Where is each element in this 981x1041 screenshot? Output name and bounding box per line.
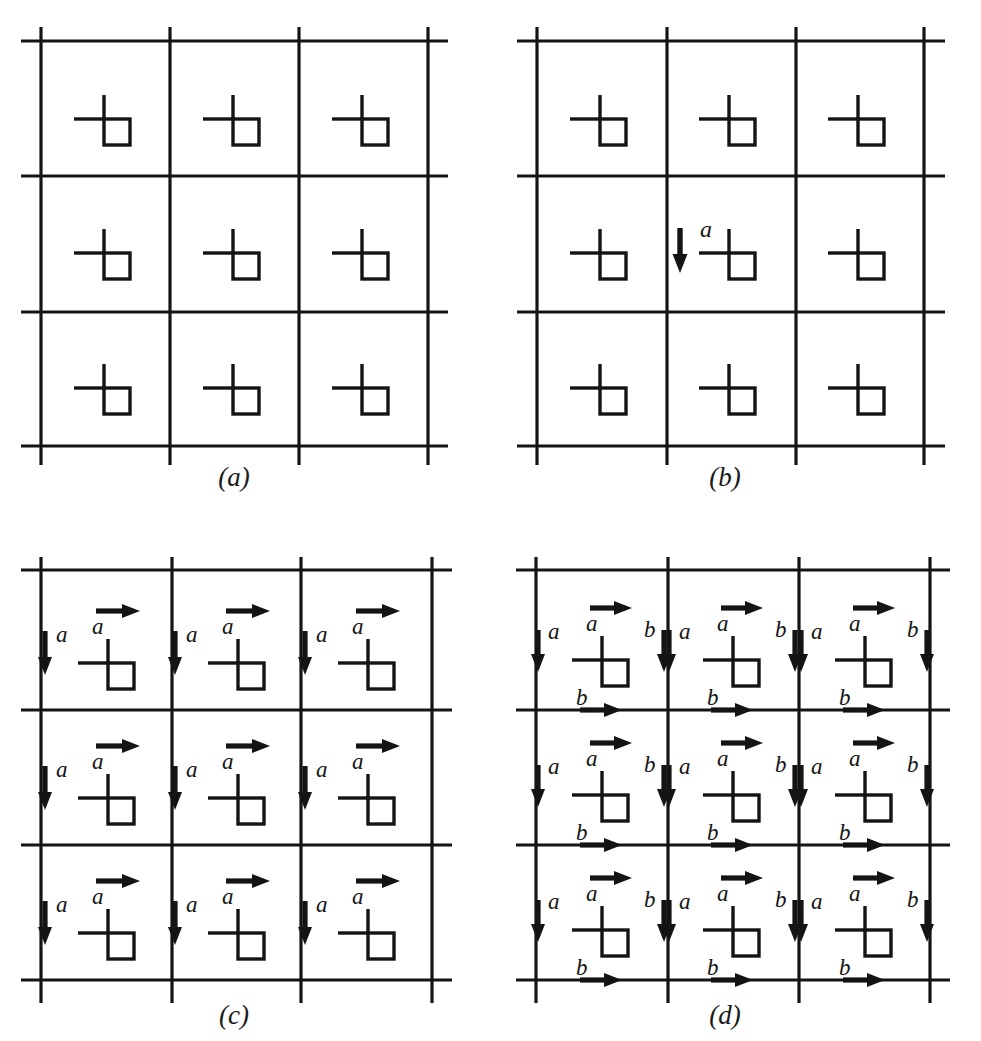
panel-d-label-a-top-1: a [586, 612, 598, 635]
caption-panel-d: (d) [665, 1000, 785, 1031]
caption-panel-c-text: (c) [219, 1000, 249, 1030]
panel-c-label-a-left-7: a [56, 893, 68, 916]
caption-panel-a: (a) [174, 462, 294, 493]
panel-c-label-a-top-9: a [352, 885, 364, 908]
panel-d-label-b-bottom-5: b [707, 821, 719, 844]
panel-d-label-a-left-8: a [679, 890, 691, 913]
panel-d-label-a-left-1: a [548, 620, 560, 643]
panel-c-label-a-left-1: a [56, 623, 68, 646]
panel-a-motifs [74, 95, 388, 414]
panel-d-label-a-top-7: a [586, 882, 598, 905]
panel-c-label-a-left-6: a [316, 758, 328, 781]
caption-panel-c: (c) [174, 1000, 294, 1031]
panel-d-label-a-left-5: a [679, 755, 691, 778]
panel-c-label-a-left-2: a [186, 623, 198, 646]
panel-b [490, 0, 981, 500]
panel-d-label-a-top-3: a [849, 612, 861, 635]
caption-panel-d-text: (d) [709, 1000, 740, 1030]
panel-b-label-a: a [700, 216, 712, 243]
panel-d-label-b-right-7: b [644, 888, 656, 911]
panel-b-motifs [570, 95, 884, 414]
panel-d-label-a-left-3: a [811, 620, 823, 643]
caption-panel-b-text: (b) [709, 462, 740, 492]
panel-d-canvas [490, 545, 981, 1015]
panel-c-label-a-left-4: a [56, 758, 68, 781]
panel-b-vector-a-down [673, 228, 688, 273]
caption-panel-b: (b) [665, 462, 785, 493]
panel-d-label-a-left-7: a [548, 890, 560, 913]
panel-d-label-a-left-6: a [811, 755, 823, 778]
panel-d-label-b-bottom-1: b [576, 686, 588, 709]
panel-d-label-b-bottom-9: b [839, 956, 851, 979]
panel-c-label-a-top-2: a [222, 615, 234, 638]
panel-c-canvas [0, 545, 490, 1015]
panel-c-label-a-top-6: a [352, 750, 364, 773]
panel-d-cells [531, 601, 934, 987]
panel-d [490, 545, 981, 1015]
panel-c-label-a-left-8: a [186, 893, 198, 916]
panel-d-label-a-top-4: a [586, 747, 598, 770]
panel-d-label-a-top-9: a [849, 882, 861, 905]
panel-d-label-a-left-4: a [548, 755, 560, 778]
panel-d-label-a-left-2: a [679, 620, 691, 643]
lattice-figure: (a) [0, 0, 981, 1041]
panel-c-label-a-left-3: a [316, 623, 328, 646]
panel-c-label-a-left-9: a [316, 893, 328, 916]
panel-d-label-b-bottom-8: b [707, 956, 719, 979]
panel-d-label-a-top-5: a [717, 747, 729, 770]
panel-d-label-b-right-5: b [775, 753, 787, 776]
panel-d-label-b-bottom-7: b [576, 956, 588, 979]
panel-c-label-a-top-3: a [352, 615, 364, 638]
panel-c-label-a-left-5: a [186, 758, 198, 781]
panel-c-label-a-top-7: a [92, 885, 104, 908]
panel-d-label-b-right-2: b [775, 618, 787, 641]
panel-d-label-a-top-6: a [849, 747, 861, 770]
panel-c-label-a-top-1: a [92, 615, 104, 638]
panel-d-label-b-bottom-2: b [707, 686, 719, 709]
panel-d-label-b-right-8: b [775, 888, 787, 911]
panel-d-label-b-bottom-3: b [839, 686, 851, 709]
panel-d-label-b-right-3: b [907, 618, 919, 641]
panel-b-gridlines [517, 27, 945, 465]
panel-d-label-b-right-6: b [907, 753, 919, 776]
panel-d-label-a-left-9: a [811, 890, 823, 913]
panel-d-label-b-right-1: b [644, 618, 656, 641]
panel-c-label-a-top-5: a [222, 750, 234, 773]
panel-d-label-b-bottom-4: b [576, 821, 588, 844]
panel-d-label-b-bottom-6: b [839, 821, 851, 844]
panel-b-canvas [490, 0, 981, 500]
panel-c-label-a-top-8: a [222, 885, 234, 908]
panel-d-label-a-top-2: a [717, 612, 729, 635]
panel-c-label-a-top-4: a [92, 750, 104, 773]
caption-panel-a-text: (a) [218, 462, 249, 492]
panel-d-label-b-right-9: b [907, 888, 919, 911]
panel-a [0, 0, 490, 500]
panel-d-label-a-top-8: a [717, 882, 729, 905]
panel-c [0, 545, 490, 1015]
panel-d-label-b-right-4: b [644, 753, 656, 776]
panel-a-canvas [0, 0, 490, 500]
